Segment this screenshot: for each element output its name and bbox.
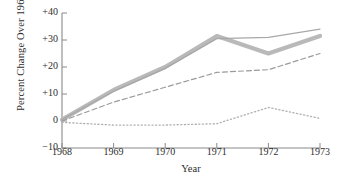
axis-lines	[62, 13, 320, 148]
x-tick-label: 1969	[91, 146, 137, 157]
y-axis-title: Percent Change Over 1968	[15, 0, 26, 121]
data-series-layer	[62, 29, 320, 125]
chart-figure: +40+30+20+100−10 19681969197019711972197…	[0, 0, 349, 179]
series-line-dotted-series	[62, 108, 320, 126]
x-axis-title: Year	[62, 163, 320, 174]
x-tick-label: 1971	[194, 146, 240, 157]
axis-ticks	[62, 13, 320, 148]
x-tick-label: 1968	[39, 146, 85, 157]
series-line-dashed-series	[62, 54, 320, 122]
x-tick-label: 1972	[245, 146, 291, 157]
x-tick-label: 1973	[297, 146, 343, 157]
series-line-thin-solid-series	[62, 29, 320, 119]
x-tick-label: 1970	[142, 146, 188, 157]
